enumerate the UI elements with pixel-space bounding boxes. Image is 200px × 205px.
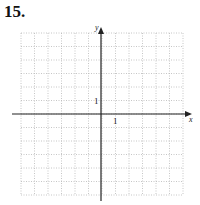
x-tick-label: 1 xyxy=(113,116,118,126)
y-tick-label: 1 xyxy=(94,96,99,106)
y-axis-arrow-icon xyxy=(98,27,104,34)
y-axis-label: y xyxy=(94,23,99,32)
coordinate-grid: x y 1 1 xyxy=(0,0,200,205)
x-axis-label: x xyxy=(188,115,193,124)
